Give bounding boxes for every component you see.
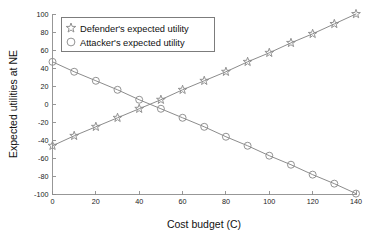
y-tick-label: 20	[41, 82, 49, 91]
x-tick-label: 60	[179, 197, 187, 206]
legend-label-defender: Defender's expected utility	[80, 24, 189, 34]
y-axis-title: Expected utilities at NE	[7, 50, 19, 158]
x-tick-label: 100	[263, 197, 275, 206]
y-tick-label: 0	[45, 100, 49, 109]
chart-legend[interactable]: Defender's expected utility Attacker's e…	[62, 18, 215, 52]
x-axis-title: Cost budget (C)	[167, 218, 241, 230]
x-tick-label: 80	[222, 197, 230, 206]
expected-utilities-line-chart: 100806040200-20-40-60-80-100 02040608010…	[0, 0, 377, 234]
y-tick-label: 100	[37, 10, 49, 19]
x-tick-label: 40	[135, 197, 143, 206]
y-tick-label: -80	[38, 172, 48, 181]
chart-figure: 100806040200-20-40-60-80-100 02040608010…	[0, 0, 377, 234]
y-tick-label: -40	[38, 136, 48, 145]
x-tick-label: 20	[92, 197, 100, 206]
y-tick-label: 80	[41, 28, 49, 37]
x-tick-label: 140	[350, 197, 362, 206]
x-tick-label: 120	[307, 197, 319, 206]
y-tick-label: -20	[38, 118, 48, 127]
y-tick-label: 40	[41, 64, 49, 73]
y-tick-label: -100	[34, 190, 48, 199]
y-tick-label: 60	[41, 46, 49, 55]
legend-label-attacker: Attacker's expected utility	[80, 38, 185, 48]
legend-item-defender[interactable]: Defender's expected utility	[66, 23, 189, 34]
legend-item-attacker[interactable]: Attacker's expected utility	[67, 38, 185, 48]
y-tick-label: -60	[38, 154, 48, 163]
x-tick-label: 0	[51, 197, 55, 206]
